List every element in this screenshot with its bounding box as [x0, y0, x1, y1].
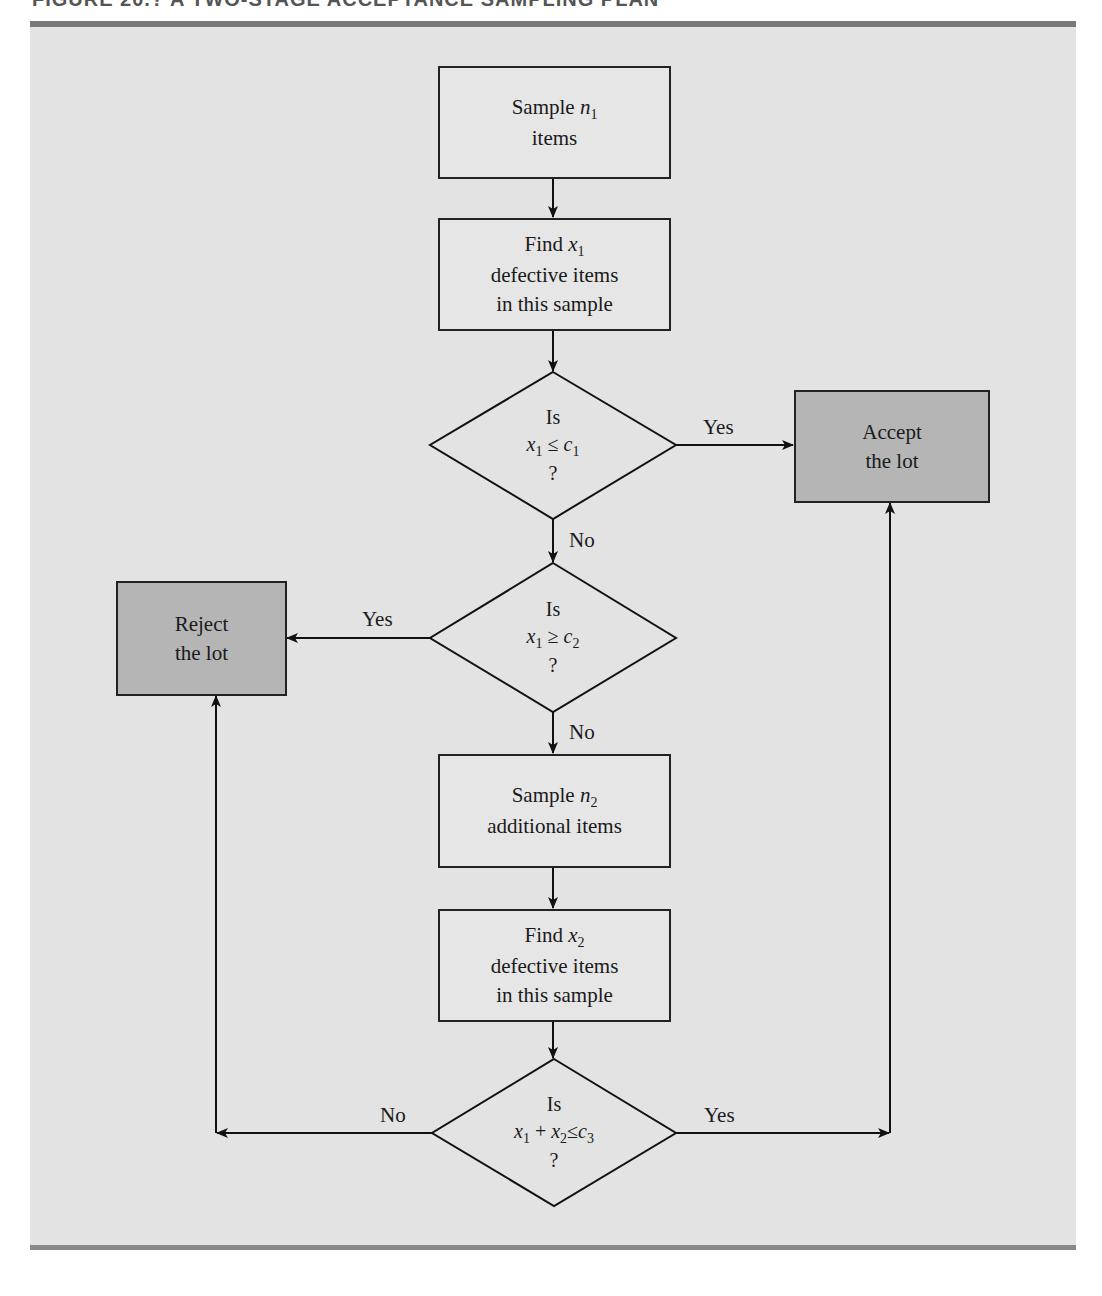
node-text: Is [454, 1091, 654, 1118]
variable-n: n [580, 783, 591, 807]
operator: ≥ [548, 625, 559, 647]
node-text: ? [454, 1147, 654, 1174]
node-text: Find [524, 232, 563, 256]
node-text: the lot [865, 447, 918, 476]
node-text: Accept [862, 418, 921, 447]
edge-label-d1-no: No [569, 528, 595, 553]
subscript: 2 [560, 1131, 567, 1146]
variable-c: c [578, 1120, 587, 1142]
edge-label-d2-yes: Yes [362, 607, 393, 632]
edge-label-d2-no: No [569, 720, 595, 745]
node-text: Sample [512, 783, 575, 807]
node-find-x2: Find x2 defective items in this sample [438, 909, 671, 1022]
subscript: 1 [523, 1131, 530, 1146]
node-text: the lot [175, 639, 228, 668]
node-text: in this sample [496, 290, 613, 319]
node-text: ? [453, 652, 653, 679]
edge-label-d1-yes: Yes [703, 415, 734, 440]
node-sample-n2: Sample n2 additional items [438, 754, 671, 868]
variable-x: x [568, 923, 577, 947]
operator: ≤ [567, 1120, 578, 1142]
node-reject-lot: Reject the lot [116, 581, 287, 696]
node-text: defective items [491, 952, 619, 981]
edge-label-d3-no: No [380, 1103, 406, 1128]
subscript: 1 [536, 444, 543, 459]
operator: ≤ [548, 433, 559, 455]
node-text: Is [453, 596, 653, 623]
node-find-x1: Find x1 defective items in this sample [438, 218, 671, 331]
variable-x: x [568, 232, 577, 256]
variable-x: x [527, 625, 536, 647]
decision-2: Is x1 ≥ c2 ? [453, 596, 653, 679]
subscript: 1 [590, 107, 597, 122]
node-text: additional items [487, 812, 622, 841]
node-accept-lot: Accept the lot [794, 390, 990, 503]
subscript: 2 [590, 795, 597, 810]
edge-label-d3-yes: Yes [704, 1103, 735, 1128]
subscript: 1 [578, 244, 585, 259]
subscript: 3 [587, 1131, 594, 1146]
subscript: 1 [572, 444, 579, 459]
node-text: ? [453, 460, 653, 487]
decision-1: Is x1 ≤ c1 ? [453, 404, 653, 487]
node-sample-n1: Sample n1 items [438, 66, 671, 179]
operator: + [535, 1120, 546, 1142]
node-text: Sample [512, 95, 575, 119]
variable-n: n [580, 95, 591, 119]
subscript: 2 [572, 636, 579, 651]
node-text: Is [453, 404, 653, 431]
node-text: defective items [491, 261, 619, 290]
variable-x: x [514, 1120, 523, 1142]
decision-3: Is x1 + x2≤c3 ? [454, 1091, 654, 1174]
node-text: items [532, 124, 578, 153]
subscript: 2 [578, 935, 585, 950]
subscript: 1 [536, 636, 543, 651]
node-text: Find [524, 923, 563, 947]
variable-x: x [551, 1120, 560, 1142]
node-text: Reject [175, 610, 229, 639]
node-text: in this sample [496, 981, 613, 1010]
variable-x: x [527, 433, 536, 455]
